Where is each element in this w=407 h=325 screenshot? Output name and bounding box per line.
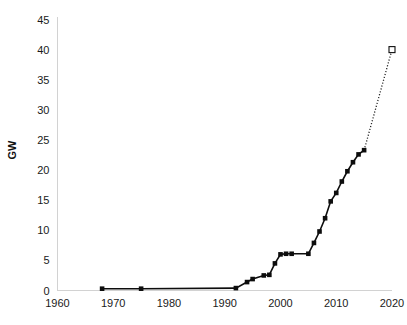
axis-lines xyxy=(58,17,393,291)
data-point-marker xyxy=(100,286,105,291)
y-tick-label: 20 xyxy=(37,164,49,176)
data-point-marker xyxy=(306,251,311,256)
data-point-marker xyxy=(284,251,289,256)
data-point-marker xyxy=(312,241,317,246)
data-point-marker xyxy=(139,286,144,291)
y-tick-label: 40 xyxy=(37,44,49,56)
data-point-marker xyxy=(278,252,283,257)
y-tick-label: 25 xyxy=(37,134,49,146)
data-point-marker xyxy=(351,160,356,165)
projected-data-point-marker xyxy=(389,47,395,53)
data-point-marker xyxy=(362,148,367,153)
y-tick-label: 5 xyxy=(43,254,49,266)
x-axis-tick-labels: 1960197019801990200020102020 xyxy=(45,297,404,309)
data-point-marker xyxy=(317,229,322,234)
data-point-marker xyxy=(340,179,345,184)
y-axis-tick-labels: 051015202530354045 xyxy=(37,14,49,297)
data-point-marker xyxy=(289,251,294,256)
data-series-layer xyxy=(100,47,395,291)
x-tick-label: 1970 xyxy=(101,297,125,309)
y-axis-title: GW xyxy=(6,140,18,160)
data-point-marker xyxy=(250,277,255,282)
data-point-marker xyxy=(245,280,250,285)
data-point-marker xyxy=(261,273,266,278)
data-point-marker xyxy=(273,261,278,266)
x-tick-label: 1960 xyxy=(45,297,69,309)
data-point-marker xyxy=(234,286,239,291)
data-point-marker xyxy=(334,191,339,196)
y-tick-label: 10 xyxy=(37,224,49,236)
data-point-marker xyxy=(267,273,272,278)
y-tick-label: 45 xyxy=(37,14,49,26)
x-tick-label: 1980 xyxy=(157,297,181,309)
x-tick-label: 2020 xyxy=(380,297,404,309)
data-point-marker xyxy=(356,152,361,157)
y-tick-label: 0 xyxy=(43,285,49,297)
line-chart: 051015202530354045 196019701980199020002… xyxy=(0,0,407,325)
data-point-marker xyxy=(345,169,350,174)
projection-line xyxy=(364,50,392,151)
y-tick-label: 15 xyxy=(37,194,49,206)
y-tick-label: 35 xyxy=(37,74,49,86)
chart-container: 051015202530354045 196019701980199020002… xyxy=(0,0,407,325)
y-tick-label: 30 xyxy=(37,104,49,116)
x-tick-label: 1990 xyxy=(213,297,237,309)
x-tick-label: 2000 xyxy=(268,297,292,309)
x-tick-label: 2010 xyxy=(324,297,348,309)
data-point-marker xyxy=(323,216,328,221)
data-point-marker xyxy=(328,199,333,204)
